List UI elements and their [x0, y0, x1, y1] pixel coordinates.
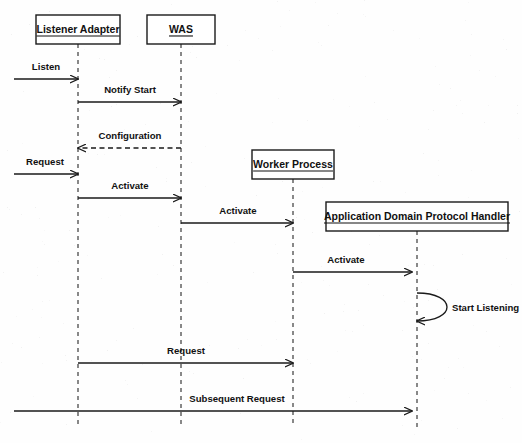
participant-label-was: WAS — [169, 23, 193, 35]
participant-was[interactable]: WAS — [147, 15, 215, 44]
message-label-msg-request-1: Request — [26, 156, 65, 167]
self-message-label-self-start-listening: Start Listening — [452, 302, 519, 313]
message-msg-request-1[interactable]: Request — [14, 156, 78, 174]
message-msg-activate-3[interactable]: Activate — [293, 254, 412, 272]
message-msg-subsequent-request[interactable]: Subsequent Request — [14, 393, 412, 411]
sequence-diagram-svg: ListenNotify StartConfigurationRequestAc… — [0, 0, 522, 443]
participant-label-application-domain-protocol-handler: Application Domain Protocol Handler — [324, 210, 510, 222]
message-msg-notify-start[interactable]: Notify Start — [78, 84, 181, 102]
participant-label-listener-adapter: Listener Adapter — [36, 23, 119, 35]
message-label-msg-configuration: Configuration — [99, 130, 162, 141]
message-msg-request-2[interactable]: Request — [78, 345, 293, 363]
message-msg-activate-2[interactable]: Activate — [181, 205, 293, 223]
self-message-loop-self-start-listening — [417, 293, 447, 321]
sequence-diagram-canvas: ListenNotify StartConfigurationRequestAc… — [0, 0, 522, 443]
self-message-self-start-listening[interactable]: Start Listening — [417, 293, 519, 321]
participant-application-domain-protocol-handler[interactable]: Application Domain Protocol Handler — [324, 202, 510, 231]
message-label-msg-activate-1: Activate — [111, 180, 148, 191]
message-label-msg-activate-3: Activate — [327, 254, 364, 265]
messages-layer: ListenNotify StartConfigurationRequestAc… — [14, 61, 412, 411]
message-label-msg-listen: Listen — [32, 61, 60, 72]
message-msg-activate-1[interactable]: Activate — [78, 180, 181, 198]
self-messages-layer: Start Listening — [417, 293, 519, 321]
message-msg-configuration[interactable]: Configuration — [78, 130, 181, 148]
message-label-msg-activate-2: Activate — [219, 205, 256, 216]
message-label-msg-request-2: Request — [167, 345, 206, 356]
message-label-msg-notify-start: Notify Start — [104, 84, 157, 95]
participant-label-worker-process: Worker Process — [253, 158, 333, 170]
participant-worker-process[interactable]: Worker Process — [252, 150, 334, 179]
participant-listener-adapter[interactable]: Listener Adapter — [36, 15, 120, 44]
message-label-msg-subsequent-request: Subsequent Request — [189, 393, 285, 404]
message-msg-listen[interactable]: Listen — [14, 61, 78, 79]
